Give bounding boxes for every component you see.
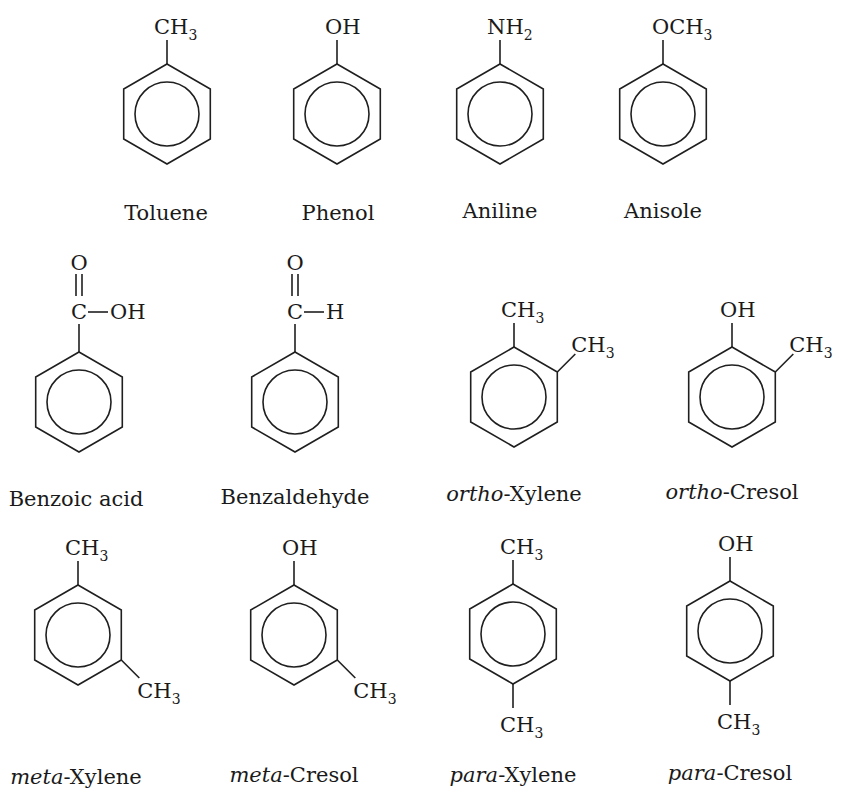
- aromatic-circle: [698, 599, 762, 663]
- compound-meta-cresol: OHCH3meta-Cresol: [229, 536, 396, 787]
- compound-aniline: NH2Aniline: [457, 15, 544, 223]
- isomer-prefix: meta: [229, 763, 282, 787]
- carbon-atom: C: [287, 300, 303, 324]
- substituent-top: CH3: [65, 536, 108, 564]
- compound-base-name: Aniline: [462, 199, 538, 223]
- subscript: 3: [824, 345, 833, 361]
- subscript: 3: [172, 691, 181, 707]
- subscript: 3: [534, 547, 543, 563]
- compound-para-xylene: CH3CH3para-Xylene: [450, 535, 577, 787]
- benzene-ring: [620, 64, 707, 164]
- aromatic-circle: [468, 82, 532, 146]
- substituent-upper-right: CH3: [789, 333, 832, 361]
- benzene-ring: [36, 352, 123, 452]
- compound-name: para-Cresol: [668, 761, 793, 785]
- oxygen-atom: O: [70, 251, 87, 275]
- benzene-ring: [687, 581, 774, 681]
- compound-meta-xylene: CH3CH3meta-Xylene: [10, 536, 180, 789]
- benzene-ring: [35, 585, 122, 685]
- compound-para-cresol: OHCH3para-Cresol: [668, 532, 793, 785]
- group-atoms: CH: [154, 15, 188, 39]
- substituent-top: OH: [720, 298, 756, 322]
- compound-base-name: Benzoic acid: [9, 487, 144, 511]
- benzene-ring: [294, 64, 381, 164]
- compound-base-name: Toluene: [124, 201, 208, 225]
- compound-ortho-xylene: CH3CH3ortho-Xylene: [446, 298, 614, 506]
- subscript: 3: [534, 725, 543, 741]
- benzene-ring: [471, 347, 558, 447]
- compound-name: Aniline: [462, 199, 538, 223]
- substituent-top: CH3: [500, 535, 543, 563]
- aromatic-circle: [263, 370, 327, 434]
- aromatic-circle: [700, 365, 764, 429]
- substituent-lower-right: CH3: [353, 679, 396, 707]
- compound-toluene: CH3Toluene: [124, 15, 211, 225]
- benzene-ring: [470, 584, 557, 684]
- aromatic-compounds-diagram: CH3TolueneOHPhenolNH2AnilineOCH3AnisoleC…: [0, 0, 854, 809]
- substituent-top: CH3: [501, 298, 544, 326]
- compound-ortho-cresol: OHCH3ortho-Cresol: [665, 298, 832, 504]
- compound-base-name: -Xylene: [504, 482, 582, 506]
- substituent-top: OH: [718, 532, 754, 556]
- group-atoms: OH: [325, 15, 361, 39]
- subscript: 3: [535, 310, 544, 326]
- compound-name: meta-Cresol: [229, 763, 358, 787]
- compound-name: Benzaldehyde: [221, 485, 370, 509]
- aromatic-circle: [305, 82, 369, 146]
- substituent-top: OH: [282, 536, 318, 560]
- substituent-bottom: CH3: [717, 710, 760, 738]
- group-atoms: NH: [487, 15, 524, 39]
- group-atoms: CH: [789, 333, 823, 357]
- compound-base-name: -Xylene: [498, 763, 576, 787]
- compound-base-name: -Xylene: [64, 765, 142, 789]
- substituent-lower-right: CH3: [137, 679, 180, 707]
- compound-benzoic-acid: COOHBenzoic acid: [9, 251, 146, 511]
- compound-name: ortho-Cresol: [665, 480, 798, 504]
- group-atoms: OH: [720, 298, 756, 322]
- bond: [121, 660, 139, 678]
- isomer-prefix: meta: [10, 765, 63, 789]
- benzene-ring: [689, 347, 776, 447]
- r-group: H: [326, 300, 344, 324]
- group-atoms: CH: [501, 298, 535, 322]
- compound-name: meta-Xylene: [10, 765, 142, 789]
- subscript: 2: [524, 27, 533, 43]
- subscript: 3: [606, 345, 615, 361]
- subscript: 3: [99, 548, 108, 564]
- compound-base-name: Benzaldehyde: [221, 485, 370, 509]
- group-atoms: OCH: [652, 15, 704, 39]
- substituent-top: OCH3: [652, 15, 713, 43]
- substituent-top: CH3: [154, 15, 197, 43]
- subscript: 3: [751, 722, 760, 738]
- benzene-ring: [251, 585, 338, 685]
- substituent-upper-right: CH3: [571, 333, 614, 361]
- substituent-top: NH2: [487, 15, 533, 43]
- subscript: 3: [704, 27, 713, 43]
- benzene-ring: [252, 352, 339, 452]
- group-atoms: CH: [717, 710, 751, 734]
- r-group: OH: [110, 300, 146, 324]
- compound-name: Phenol: [302, 201, 375, 225]
- group-atoms: CH: [65, 536, 99, 560]
- compound-base-name: Anisole: [623, 199, 702, 223]
- aromatic-circle: [481, 602, 545, 666]
- compound-base-name: -Cresol: [283, 763, 359, 787]
- compound-name: ortho-Xylene: [446, 482, 582, 506]
- substituent-bottom: CH3: [500, 713, 543, 741]
- bond: [337, 660, 355, 678]
- compound-base-name: -Cresol: [716, 761, 792, 785]
- aromatic-circle: [46, 603, 110, 667]
- aromatic-circle: [631, 82, 695, 146]
- compound-base-name: -Cresol: [723, 480, 799, 504]
- benzene-ring: [457, 64, 544, 164]
- group-atoms: CH: [353, 679, 387, 703]
- oxygen-atom: O: [286, 251, 303, 275]
- group-atoms: CH: [500, 535, 534, 559]
- aromatic-circle: [262, 603, 326, 667]
- compound-anisole: OCH3Anisole: [620, 15, 713, 223]
- benzene-ring: [124, 64, 211, 164]
- compound-base-name: Phenol: [302, 201, 375, 225]
- isomer-prefix: para: [668, 761, 717, 785]
- aromatic-circle: [47, 370, 111, 434]
- isomer-prefix: ortho: [665, 480, 722, 504]
